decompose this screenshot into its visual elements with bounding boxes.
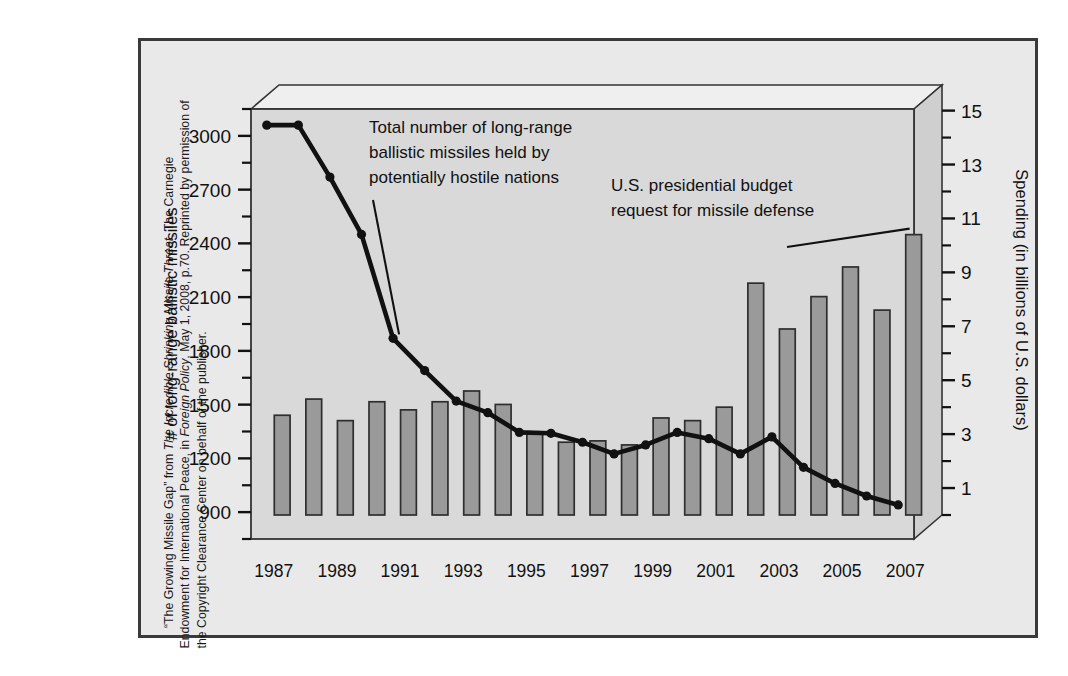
line-data-point <box>862 491 871 500</box>
y2-axis-tick-label: 1 <box>961 478 972 499</box>
bar <box>811 297 827 515</box>
line-data-point <box>578 438 587 447</box>
figure-frame: “The Growing Missile Gap” from The Incre… <box>138 38 1038 638</box>
x-axis-tick-label: 1989 <box>317 561 356 581</box>
bar <box>779 329 795 515</box>
line-data-point <box>609 449 618 458</box>
x-axis-tick-label: 1997 <box>570 561 609 581</box>
line-data-point <box>546 429 555 438</box>
line-data-point <box>483 408 492 417</box>
bar <box>527 434 543 515</box>
line-data-point <box>262 121 271 130</box>
line-data-point <box>830 479 839 488</box>
x-axis-tick-label: 1995 <box>507 561 546 581</box>
y2-axis-tick-label: 13 <box>961 155 982 176</box>
y2-axis-tick-label: 5 <box>961 370 972 391</box>
line-data-point <box>357 230 366 239</box>
line-data-point <box>325 172 334 181</box>
annotation-text-line: request for missile defense <box>611 201 814 220</box>
bar <box>337 421 353 515</box>
bar <box>874 310 890 515</box>
x-axis-tick-label: 2003 <box>759 561 798 581</box>
y-axis-tick-label: 900 <box>199 502 231 523</box>
line-data-point <box>452 396 461 405</box>
y2-axis-tick-label: 3 <box>961 424 972 445</box>
line-data-point <box>894 500 903 509</box>
line-data-point <box>799 463 808 472</box>
y-axis-tick-label: 1200 <box>189 448 231 469</box>
bar <box>432 402 448 515</box>
figure-root: “The Growing Missile Gap” from The Incre… <box>0 0 1068 676</box>
line-data-point <box>515 428 524 437</box>
x-axis-tick-label: 1991 <box>381 561 420 581</box>
y2-axis-tick-label: 9 <box>961 262 972 283</box>
x-axis-tick-label: 2001 <box>696 561 735 581</box>
line-data-point <box>388 334 397 343</box>
annotation-text-line: U.S. presidential budget <box>611 176 793 195</box>
line-data-point <box>294 121 303 130</box>
y2-axis-tick-label: 15 <box>961 101 982 122</box>
line-data-point <box>736 449 745 458</box>
y2-axis-tick-label: 7 <box>961 316 972 337</box>
bar <box>843 267 859 515</box>
x-axis-tick-label: 2007 <box>886 561 925 581</box>
annotation-text-line: potentially hostile nations <box>369 168 559 187</box>
bar <box>716 407 732 515</box>
annotation-text-line: ballistic missiles held by <box>369 143 550 162</box>
bar <box>306 399 322 515</box>
bar <box>369 402 385 515</box>
bar <box>401 410 417 515</box>
bar <box>906 235 922 515</box>
combo-chart: 9001200150018002100240027003000135791113… <box>141 41 1035 635</box>
line-data-point <box>420 366 429 375</box>
y-axis-title: # of long-range ballistic missiles <box>162 208 180 441</box>
bar <box>622 445 638 515</box>
line-data-point <box>673 428 682 437</box>
bar <box>274 415 290 515</box>
y-axis-tick-label: 3000 <box>189 126 231 147</box>
bar <box>748 283 764 515</box>
bar <box>558 442 574 515</box>
y-axis-tick-label: 1800 <box>189 341 231 362</box>
x-axis-tick-label: 2005 <box>823 561 862 581</box>
line-data-point <box>641 440 650 449</box>
y2-axis-title: Spending (in billions of U.S. dollars) <box>1013 169 1031 430</box>
y-axis-tick-label: 2700 <box>189 180 231 201</box>
y2-axis-tick-label: 11 <box>961 208 981 229</box>
annotation-text-line: Total number of long-range <box>369 118 572 137</box>
y-axis-tick-label: 2400 <box>189 233 231 254</box>
x-axis-tick-label: 1999 <box>633 561 672 581</box>
bar <box>653 418 669 515</box>
x-axis-tick-label: 1987 <box>254 561 293 581</box>
plot-top-face <box>251 85 942 109</box>
line-data-point <box>767 432 776 441</box>
line-data-point <box>704 434 713 443</box>
y-axis-tick-label: 2100 <box>189 287 231 308</box>
x-axis-tick-label: 1993 <box>444 561 483 581</box>
y-axis-tick-label: 1500 <box>189 395 231 416</box>
